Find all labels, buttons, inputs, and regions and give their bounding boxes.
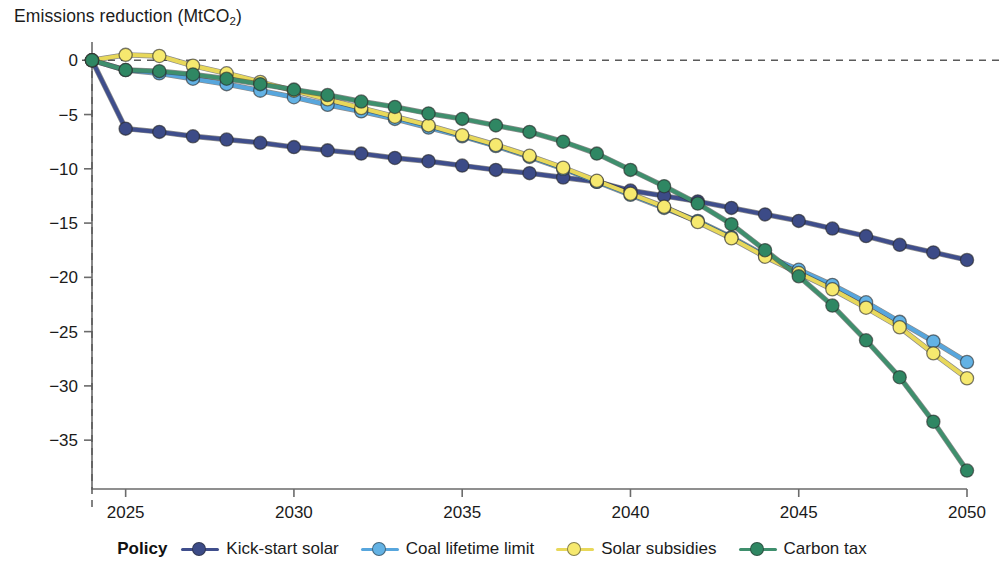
data-point (893, 321, 906, 334)
legend-key-icon (361, 539, 399, 559)
series-line-coal-lifetime-limit (92, 60, 967, 362)
data-point (927, 335, 940, 348)
data-point (725, 232, 738, 245)
data-point (691, 197, 704, 210)
data-point (725, 201, 738, 214)
data-point (119, 122, 132, 135)
x-axis-tick-label: 2045 (780, 503, 818, 522)
legend-key-icon (739, 539, 777, 559)
series-markers-solar-subsidies (85, 48, 973, 385)
data-point (254, 136, 267, 149)
y-axis-tick-label: −5 (59, 106, 78, 125)
data-point (489, 138, 502, 151)
data-point (624, 187, 637, 200)
data-point (590, 174, 603, 187)
data-point (557, 135, 570, 148)
legend-item-kick-start-solar[interactable]: Kick-start solar (181, 539, 338, 559)
y-axis-tick-label: 0 (69, 51, 78, 70)
data-point (960, 253, 973, 266)
x-axis-tick-label: 2040 (612, 503, 650, 522)
data-point (287, 141, 300, 154)
data-point (927, 415, 940, 428)
data-point (927, 347, 940, 360)
data-point (658, 180, 671, 193)
data-point (355, 147, 368, 160)
x-axis-tick-label: 2035 (443, 503, 481, 522)
data-point (624, 163, 637, 176)
series-line-outline (92, 55, 967, 378)
data-point (456, 129, 469, 142)
data-point (523, 125, 536, 138)
data-point (119, 63, 132, 76)
legend-item-label: Kick-start solar (226, 539, 338, 559)
series-line-stroke (92, 55, 967, 378)
legend-item-coal-lifetime-limit[interactable]: Coal lifetime limit (361, 539, 534, 559)
data-point (186, 130, 199, 143)
data-point (321, 88, 334, 101)
data-point (489, 119, 502, 132)
data-point (960, 372, 973, 385)
data-point (523, 167, 536, 180)
legend-key-icon (181, 539, 219, 559)
series-line-solar-subsidies (92, 55, 967, 378)
data-point (725, 218, 738, 231)
legend-item-solar-subsidies[interactable]: Solar subsidies (556, 539, 716, 559)
series-line-stroke (92, 60, 967, 470)
data-point (422, 155, 435, 168)
legend-marker-dot (192, 542, 206, 556)
legend-marker-dot (567, 542, 581, 556)
x-axis-tick-label: 2030 (275, 503, 313, 522)
data-point (658, 200, 671, 213)
y-axis-tick-label: −10 (49, 160, 78, 179)
data-point (859, 334, 872, 347)
series-markers-carbon-tax (85, 54, 973, 477)
data-point (960, 464, 973, 477)
data-point (422, 107, 435, 120)
data-point (153, 65, 166, 78)
series-line-outline (92, 60, 967, 470)
axis-spines (92, 42, 967, 489)
data-point (826, 222, 839, 235)
legend-item-carbon-tax[interactable]: Carbon tax (739, 539, 867, 559)
legend-title: Policy (117, 539, 167, 559)
data-point (792, 270, 805, 283)
data-point (321, 144, 334, 157)
legend-key-icon (556, 539, 594, 559)
legend-item-label: Coal lifetime limit (406, 539, 534, 559)
data-point (927, 246, 940, 259)
legend: Policy Kick-start solarCoal lifetime lim… (0, 534, 1006, 564)
series-line-stroke (92, 60, 967, 362)
data-point (859, 301, 872, 314)
legend-marker-dot (372, 542, 386, 556)
data-point (590, 147, 603, 160)
data-point (557, 161, 570, 174)
y-axis-tick-label: −25 (49, 323, 78, 342)
data-point (153, 49, 166, 62)
data-point (153, 125, 166, 138)
y-axis-tick-label: −35 (49, 431, 78, 450)
x-axis-tick-label: 2025 (107, 503, 145, 522)
data-point (220, 72, 233, 85)
series-markers-coal-lifetime-limit (85, 54, 973, 369)
data-point (960, 355, 973, 368)
data-point (254, 78, 267, 91)
data-point (456, 159, 469, 172)
data-point (758, 244, 771, 257)
data-point (893, 238, 906, 251)
data-point (388, 151, 401, 164)
data-point (287, 83, 300, 96)
data-point (758, 208, 771, 221)
data-point (220, 133, 233, 146)
data-point (388, 100, 401, 113)
data-point (119, 48, 132, 61)
data-point (186, 68, 199, 81)
y-axis-tick-label: −30 (49, 377, 78, 396)
plot-area: 0−5−10−15−20−25−30−352025203020352040204… (0, 0, 1006, 564)
data-point (355, 95, 368, 108)
data-point (456, 112, 469, 125)
legend-marker-dot (750, 542, 764, 556)
data-point (422, 119, 435, 132)
series-line-outline (92, 60, 967, 362)
legend-item-label: Solar subsidies (601, 539, 716, 559)
data-point (523, 149, 536, 162)
